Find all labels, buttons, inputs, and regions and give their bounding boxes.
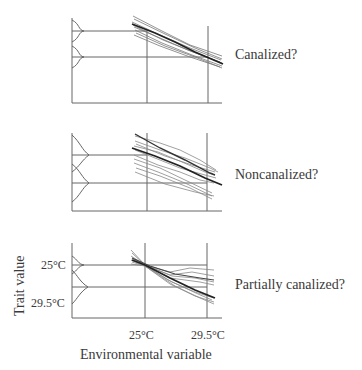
panel-label-partially-canalized: Partially canalized? — [235, 277, 345, 293]
mean-norm — [132, 260, 215, 298]
y-axis-label: Trait value — [12, 255, 28, 316]
panel-canalized — [72, 16, 223, 103]
mean-norm — [132, 24, 223, 64]
panel-partially-canalized — [72, 243, 222, 318]
panel-label-noncanalized: Noncanalized? — [235, 167, 318, 183]
panel-label-canalized: Canalized? — [235, 47, 297, 63]
x-tick-29-5: 29.5°C — [191, 328, 225, 343]
x-axis-label: Environmental variable — [80, 347, 212, 363]
reaction-norms — [131, 250, 214, 304]
x-tick-25: 25°C — [129, 328, 154, 343]
y-tick-25: 25°C — [41, 258, 66, 273]
reaction-norm-diagram — [0, 0, 362, 370]
y-tick-29-5: 29.5°C — [31, 296, 65, 311]
panel-noncanalized — [72, 133, 222, 211]
